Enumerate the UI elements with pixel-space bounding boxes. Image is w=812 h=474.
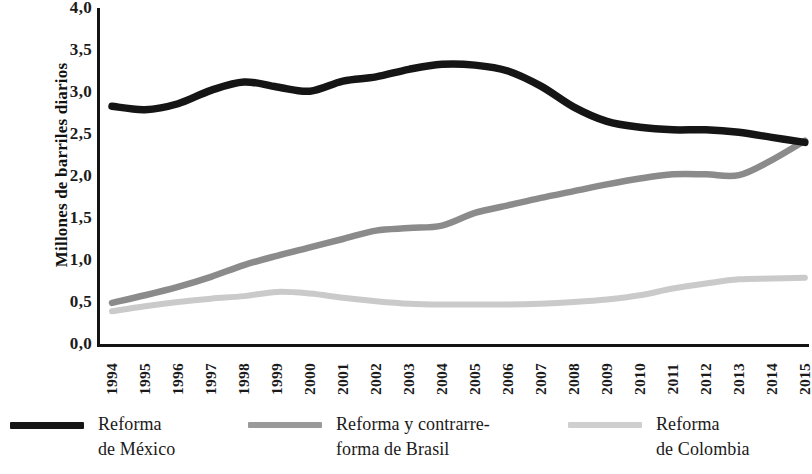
x-tick-label: 2011 (664, 349, 682, 409)
x-tick-label: 2012 (697, 349, 715, 409)
legend-swatch-icon (10, 422, 84, 429)
x-tick-label: 1995 (136, 349, 154, 409)
legend-mexico[interactable]: Reforma de México (10, 412, 175, 462)
x-tick-label: 2001 (334, 349, 352, 409)
y-tick-label: 3,5 (40, 40, 92, 60)
chart-legend: Reforma de MéxicoReforma y contrarre- fo… (0, 412, 812, 474)
y-tick-label: 0,0 (40, 334, 92, 354)
y-axis-tick-labels: 0,00,51,01,52,02,53,03,54,0 (40, 0, 92, 360)
legend-label: Reforma y contrarre- forma de Brasil (336, 412, 490, 462)
plot-area (98, 8, 809, 346)
x-tick-label: 1994 (103, 349, 121, 409)
x-tick-label: 2010 (631, 349, 649, 409)
legend-label: Reforma de México (98, 412, 175, 462)
x-axis-tick-labels: 1994199519961997199819992000200120022003… (98, 348, 812, 406)
legend-label: Reforma de Colombia (656, 412, 750, 462)
legend-swatch-icon (248, 422, 322, 428)
chart-figure: Millones de barriles diarios 0,00,51,01,… (0, 0, 812, 474)
x-tick-label: 2014 (763, 349, 781, 409)
x-tick-label: 2006 (499, 349, 517, 409)
x-tick-label: 1997 (202, 349, 220, 409)
legend-brasil[interactable]: Reforma y contrarre- forma de Brasil (248, 412, 490, 462)
series-line (112, 141, 805, 303)
x-tick-label: 2008 (565, 349, 583, 409)
x-tick-label: 2005 (466, 349, 484, 409)
x-tick-label: 1998 (235, 349, 253, 409)
series-line (112, 64, 805, 142)
x-tick-label: 2003 (400, 349, 418, 409)
y-tick-label: 2,5 (40, 124, 92, 144)
x-tick-label: 2007 (532, 349, 550, 409)
y-tick-label: 3,0 (40, 82, 92, 102)
y-tick-label: 2,0 (40, 166, 92, 186)
x-tick-label: 2013 (730, 349, 748, 409)
y-tick-label: 0,5 (40, 292, 92, 312)
legend-colombia[interactable]: Reforma de Colombia (568, 412, 750, 462)
x-tick-label: 2000 (301, 349, 319, 409)
x-tick-label: 1996 (169, 349, 187, 409)
x-tick-label: 2002 (367, 349, 385, 409)
y-tick-label: 1,5 (40, 208, 92, 228)
series-line (112, 278, 805, 312)
series-lines (98, 8, 809, 346)
x-tick-label: 1999 (268, 349, 286, 409)
y-tick-label: 1,0 (40, 250, 92, 270)
legend-swatch-icon (568, 422, 642, 428)
x-tick-label: 2015 (796, 349, 812, 409)
y-tick-label: 4,0 (40, 0, 92, 18)
x-tick-label: 2004 (433, 349, 451, 409)
x-tick-label: 2009 (598, 349, 616, 409)
